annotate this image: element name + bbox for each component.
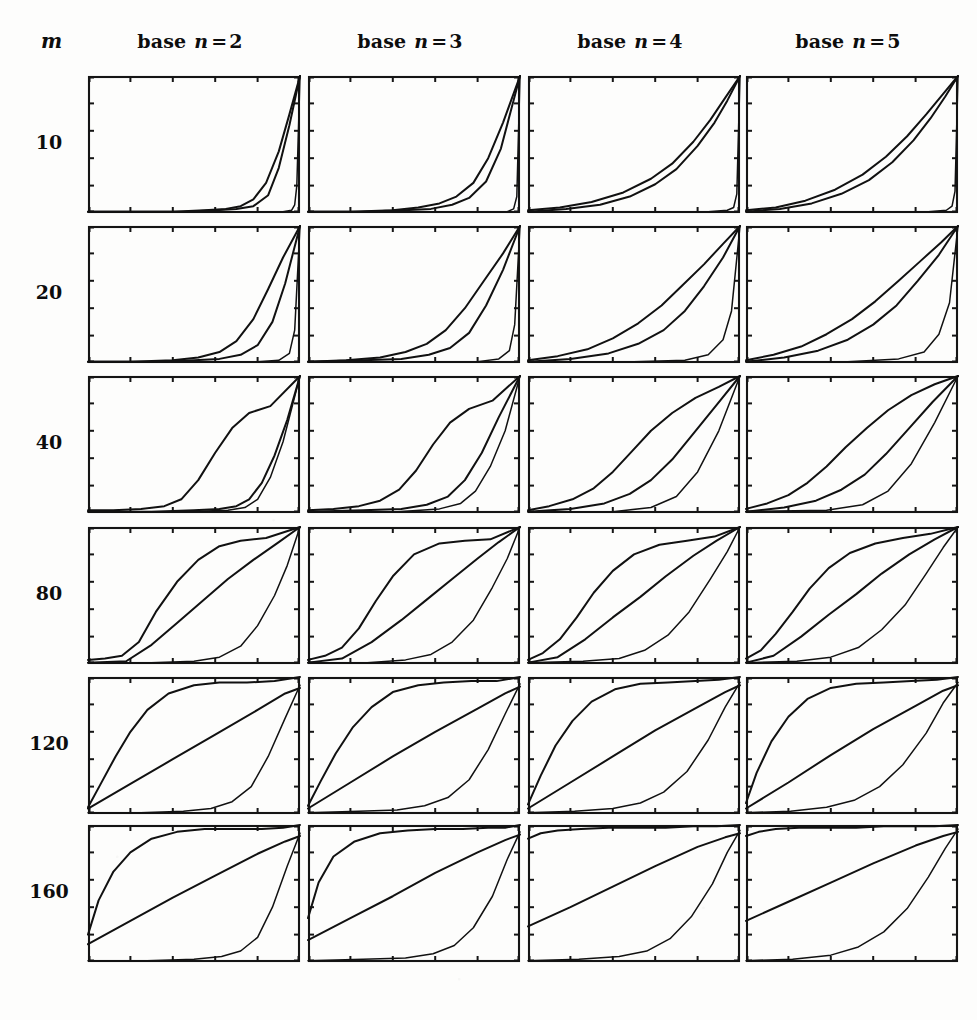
column-header-value: 4	[669, 30, 682, 52]
row-label-m20: 20	[18, 281, 80, 303]
panel-m160-n4	[528, 825, 740, 962]
row-label-m120: 120	[18, 732, 80, 754]
series-line-curve-b	[308, 376, 520, 512]
panel-m120-n4	[528, 677, 740, 814]
row-label-m80: 80	[18, 582, 80, 604]
series-line-curve-a	[746, 677, 958, 803]
panel-frame	[529, 528, 739, 663]
series-line-curve-c	[88, 376, 300, 512]
series-line-curve-b	[88, 226, 300, 362]
series-line-curve-a	[88, 376, 300, 510]
series-line-curve-b	[308, 835, 520, 940]
panel-frame	[89, 377, 299, 512]
series-line-curve-c	[88, 527, 300, 663]
panel-frame	[309, 77, 519, 212]
series-line-curve-b	[88, 527, 300, 663]
row-label-m10: 10	[18, 131, 80, 153]
column-header-n5: base n=5	[744, 30, 952, 52]
series-line-curve-a	[88, 677, 300, 807]
column-header-value: 3	[449, 30, 462, 52]
column-header-variable: n	[633, 30, 649, 52]
column-header-prefix: base	[577, 30, 626, 52]
row-label-m40: 40	[18, 431, 80, 453]
column-header-prefix: base	[357, 30, 406, 52]
panel-frame	[309, 227, 519, 362]
panel-m80-n2	[88, 527, 300, 664]
series-line-curve-a	[88, 527, 300, 660]
panel-m20-n5	[746, 226, 958, 363]
panel-frame	[89, 227, 299, 362]
series-line-curve-c	[528, 830, 740, 960]
series-line-curve-b	[88, 376, 300, 512]
series-line-curve-c	[746, 226, 958, 362]
series-line-curve-b	[528, 833, 740, 926]
panel-m20-n4	[528, 226, 740, 363]
series-line-curve-b	[88, 76, 300, 212]
panel-frame	[89, 678, 299, 813]
panel-m80-n5	[746, 527, 958, 664]
panel-frame	[747, 528, 957, 663]
series-line-curve-b	[308, 226, 520, 362]
series-line-curve-b	[746, 76, 958, 212]
row-label-m160: 160	[18, 880, 80, 902]
panel-frame	[529, 678, 739, 813]
column-header-variable: n	[193, 30, 209, 52]
series-line-curve-a	[746, 527, 958, 659]
column-header-n4: base n=4	[526, 30, 734, 52]
series-line-curve-b	[528, 76, 740, 212]
column-header-row: m base n=2base n=3base n=4base n=5	[0, 0, 977, 66]
series-line-curve-b	[528, 527, 740, 663]
panel-m20-n2	[88, 226, 300, 363]
series-line-curve-c	[88, 833, 300, 960]
series-line-curve-b	[746, 376, 958, 512]
series-line-curve-a	[308, 677, 520, 806]
series-line-curve-c	[746, 527, 958, 663]
panel-frame	[89, 826, 299, 961]
series-line-curve-c	[528, 226, 740, 362]
column-header-equals: =	[429, 30, 449, 52]
column-header-value: 2	[229, 30, 242, 52]
series-line-curve-c	[746, 829, 958, 961]
panel-frame	[309, 826, 519, 961]
series-line-curve-b	[528, 685, 740, 808]
series-line-curve-a	[88, 825, 300, 935]
series-line-curve-a	[308, 226, 520, 362]
series-line-curve-b	[746, 685, 958, 808]
column-header-prefix: base	[137, 30, 186, 52]
column-header-value: 5	[887, 30, 900, 52]
series-line-curve-a	[528, 825, 740, 839]
panel-m80-n3	[308, 527, 520, 664]
series-line-curve-a	[308, 376, 520, 510]
column-header-variable: n	[413, 30, 429, 52]
row-variable-label: m	[41, 29, 62, 53]
panel-frame	[747, 77, 957, 212]
series-line-curve-a	[746, 76, 958, 210]
column-header-n3: base n=3	[306, 30, 514, 52]
panel-frame	[747, 227, 957, 362]
series-line-curve-c	[746, 76, 958, 212]
panel-m160-n3	[308, 825, 520, 962]
panel-frame	[529, 77, 739, 212]
panel-m120-n2	[88, 677, 300, 814]
series-line-curve-b	[528, 226, 740, 362]
panel-m10-n3	[308, 76, 520, 213]
column-header-equals: =	[649, 30, 669, 52]
panel-m120-n3	[308, 677, 520, 814]
panel-frame	[529, 227, 739, 362]
panel-frame	[747, 826, 957, 961]
panel-frame	[89, 528, 299, 663]
series-line-curve-a	[746, 376, 958, 509]
panel-m40-n5	[746, 376, 958, 513]
column-header-variable: n	[851, 30, 867, 52]
column-header-equals: =	[867, 30, 887, 52]
series-line-curve-a	[528, 226, 740, 360]
series-line-curve-b	[88, 836, 300, 944]
series-line-curve-c	[88, 226, 300, 362]
panel-m160-n2	[88, 825, 300, 962]
series-line-curve-c	[308, 226, 520, 362]
panel-frame	[747, 377, 957, 512]
series-line-curve-c	[528, 76, 740, 212]
panel-m10-n4	[528, 76, 740, 213]
series-line-curve-b	[308, 76, 520, 212]
series-line-curve-c	[746, 682, 958, 812]
